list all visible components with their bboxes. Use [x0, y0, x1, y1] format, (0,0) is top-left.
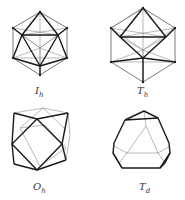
icosahedron-ih	[12, 11, 68, 76]
symmetry-figure	[0, 0, 185, 200]
label-oh: Oh	[33, 182, 46, 195]
label-td: Td	[139, 182, 150, 195]
cuboctahedron-oh	[12, 108, 70, 170]
icosahedron-th	[110, 7, 176, 83]
truncated-tetrahedron-td	[113, 111, 170, 168]
label-th: Th	[137, 86, 148, 99]
label-ih: Ih	[35, 86, 43, 99]
